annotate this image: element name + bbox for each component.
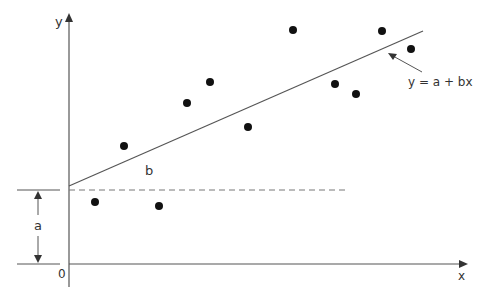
slope-label: b xyxy=(145,163,153,178)
data-point xyxy=(155,202,163,210)
data-point xyxy=(183,99,191,107)
equation-pointer-line xyxy=(393,56,422,72)
regression-diagram: y x 0 a b y = a + bx xyxy=(0,0,485,297)
y-axis-label: y xyxy=(55,14,63,29)
equation-pointer-arrow-icon xyxy=(388,53,397,60)
intercept-arrow-down-icon xyxy=(34,255,42,263)
origin-label: 0 xyxy=(58,267,66,281)
data-point xyxy=(244,123,252,131)
data-points xyxy=(91,26,415,210)
x-axis-arrow-icon xyxy=(459,260,468,268)
data-point xyxy=(407,45,415,53)
intercept-arrow-up-icon xyxy=(34,191,42,199)
data-point xyxy=(352,90,360,98)
data-point xyxy=(331,80,339,88)
intercept-label: a xyxy=(34,218,42,233)
regression-line xyxy=(69,31,423,186)
data-point xyxy=(91,198,99,206)
x-axis-label: x xyxy=(458,269,465,283)
equation-label: y = a + bx xyxy=(408,75,473,89)
data-point xyxy=(206,78,214,86)
data-point xyxy=(378,27,386,35)
y-axis-arrow-icon xyxy=(65,13,73,22)
data-point xyxy=(120,142,128,150)
data-point xyxy=(289,26,297,34)
